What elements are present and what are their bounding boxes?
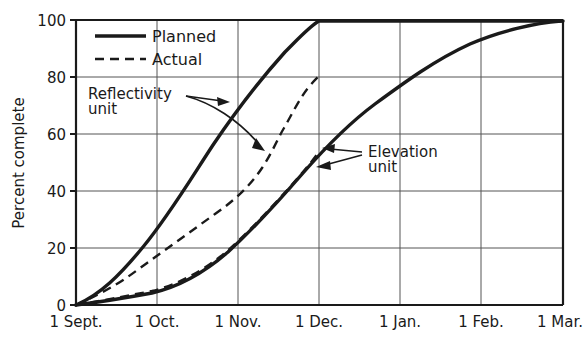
- x-tick-label-1-sept: 1 Sept.: [49, 313, 102, 331]
- legend-label-planned: Planned: [152, 27, 216, 46]
- chart-root: 100 80 60 40 20 0 Percent complete 1 Sep…: [0, 0, 588, 349]
- y-tick-label-60: 60: [47, 126, 66, 144]
- y-tick-label-40: 40: [47, 183, 66, 201]
- y-tick-label-20: 20: [47, 240, 66, 258]
- x-tick-label-1-mar: 1 Mar.: [537, 313, 583, 331]
- progress-line-chart: 100 80 60 40 20 0 Percent complete 1 Sep…: [0, 0, 588, 349]
- x-tick-label-1-dec: 1 Dec.: [295, 313, 343, 331]
- x-tick-label-1-feb: 1 Feb.: [458, 313, 504, 331]
- x-tick-label-1-oct: 1 Oct.: [134, 313, 179, 331]
- x-tick-label-1-jan: 1 Jan.: [379, 313, 421, 331]
- legend-label-actual: Actual: [152, 50, 202, 69]
- annotation-reflectivity-line2: unit: [88, 100, 117, 118]
- y-axis-title: Percent complete: [10, 97, 28, 228]
- y-tick-label-100: 100: [37, 12, 66, 30]
- y-tick-label-80: 80: [47, 69, 66, 87]
- annotation-elevation-line2: unit: [368, 158, 397, 176]
- x-tick-label-1-nov: 1 Nov.: [214, 313, 261, 331]
